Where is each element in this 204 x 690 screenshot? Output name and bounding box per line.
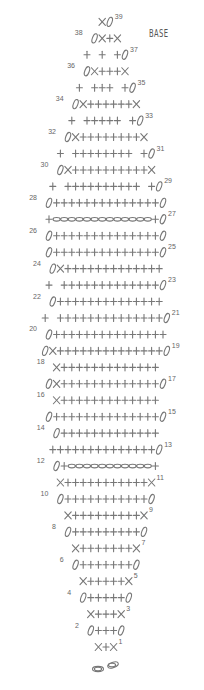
svg-text:31: 31 (157, 145, 165, 152)
svg-text:4: 4 (67, 589, 71, 596)
svg-text:32: 32 (48, 128, 56, 135)
crochet-chart: 1234567891011121314151617181920212223242… (0, 0, 204, 690)
svg-text:18: 18 (37, 358, 45, 365)
row-number-labels: 1234567891011121314151617181920212223242… (29, 13, 179, 645)
svg-text:36: 36 (67, 62, 75, 69)
svg-text:3: 3 (126, 605, 130, 612)
svg-text:8: 8 (52, 523, 56, 530)
svg-text:33: 33 (145, 112, 153, 119)
svg-text:38: 38 (75, 29, 83, 36)
svg-text:27: 27 (168, 210, 176, 217)
svg-text:15: 15 (168, 408, 176, 415)
svg-text:25: 25 (168, 243, 176, 250)
svg-text:1: 1 (119, 638, 123, 645)
svg-text:19: 19 (172, 342, 180, 349)
svg-text:17: 17 (168, 375, 176, 382)
svg-text:35: 35 (138, 79, 146, 86)
svg-text:9: 9 (149, 506, 153, 513)
svg-text:12: 12 (37, 457, 45, 464)
svg-text:16: 16 (37, 391, 45, 398)
svg-text:30: 30 (41, 161, 49, 168)
svg-text:11: 11 (157, 474, 164, 481)
svg-text:34: 34 (56, 95, 64, 102)
svg-text:29: 29 (164, 177, 172, 184)
svg-text:39: 39 (115, 13, 123, 20)
svg-text:28: 28 (29, 194, 37, 201)
svg-text:10: 10 (41, 490, 49, 497)
svg-text:37: 37 (130, 46, 138, 53)
svg-text:7: 7 (141, 539, 145, 546)
svg-text:13: 13 (164, 441, 172, 448)
svg-text:26: 26 (29, 227, 37, 234)
svg-text:2: 2 (75, 622, 79, 629)
svg-text:21: 21 (172, 309, 180, 316)
svg-text:14: 14 (37, 424, 45, 431)
svg-text:6: 6 (60, 556, 64, 563)
svg-text:5: 5 (134, 572, 138, 579)
svg-text:24: 24 (33, 260, 41, 267)
svg-text:23: 23 (168, 276, 176, 283)
svg-text:20: 20 (29, 325, 37, 332)
svg-text:22: 22 (33, 293, 41, 300)
